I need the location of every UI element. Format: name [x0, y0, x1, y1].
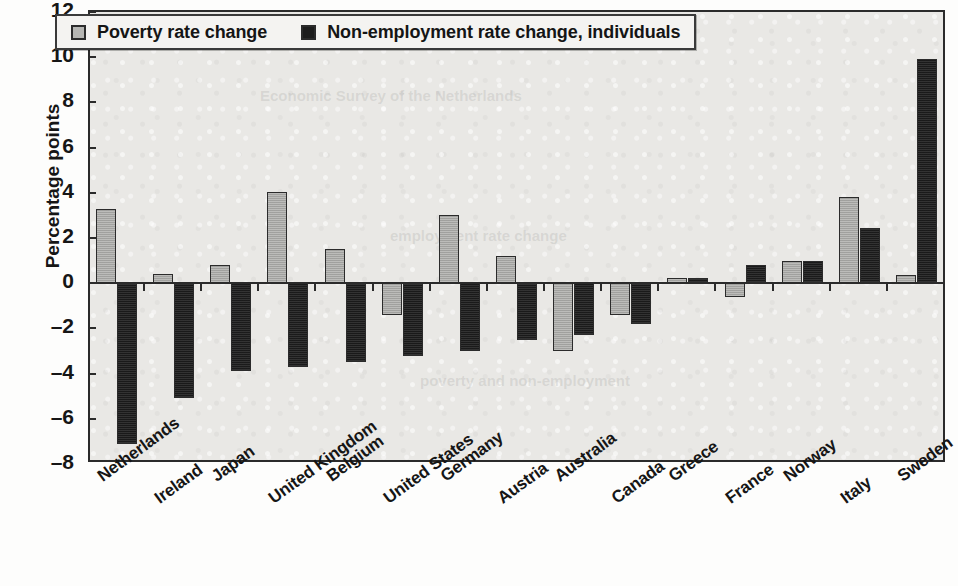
y-axis-tick-label: –2 — [28, 315, 74, 336]
y-axis-tick-label: –8 — [28, 451, 74, 472]
bar — [746, 265, 766, 283]
y-axis-tick-label: –6 — [28, 406, 74, 427]
y-axis-tick-outer — [88, 147, 90, 149]
ghost-text-a: Economic Survey of the Netherlands — [260, 87, 522, 104]
x-axis-tick-label: Ireland — [151, 460, 207, 508]
y-axis-tick-outer — [88, 56, 90, 58]
plot-area: Economic Survey of the Netherlands emplo… — [88, 10, 945, 462]
zero-baseline — [90, 282, 943, 284]
bar — [631, 283, 651, 324]
legend-entry: Poverty rate change — [71, 22, 267, 43]
x-axis-tick — [657, 284, 659, 291]
y-axis-tick-label: 8 — [28, 89, 74, 110]
bar — [553, 283, 573, 351]
bar — [346, 283, 366, 362]
x-axis-tick — [200, 284, 202, 291]
bar — [96, 209, 116, 284]
x-axis-tick — [314, 284, 316, 291]
paper-texture — [90, 12, 943, 460]
bar — [725, 283, 745, 297]
bar — [460, 283, 480, 351]
bar — [917, 59, 937, 283]
x-axis-tick — [486, 284, 488, 291]
x-axis-tick — [257, 284, 259, 291]
y-axis-tick — [90, 101, 96, 103]
x-axis-tick — [600, 284, 602, 291]
bar — [782, 261, 802, 284]
bar — [210, 265, 230, 283]
x-axis-tick — [543, 284, 545, 291]
bar — [803, 261, 823, 284]
x-axis-tick-label: Canada — [608, 457, 668, 509]
y-axis-tick — [90, 11, 96, 13]
bar — [517, 283, 537, 340]
x-axis-tick — [429, 284, 431, 291]
x-axis-tick-label: France — [722, 460, 778, 508]
bar — [439, 215, 459, 283]
x-axis-tick-label: Italy — [837, 473, 875, 509]
y-axis-tick-outer — [88, 327, 90, 329]
bar — [174, 283, 194, 398]
x-axis-tick — [143, 284, 145, 291]
legend-swatch-icon — [301, 25, 316, 40]
x-axis-tick — [829, 284, 831, 291]
ghost-text-c: poverty and non-employment — [420, 372, 630, 389]
bar — [610, 283, 630, 315]
bar — [860, 228, 880, 283]
legend-label: Non-employment rate change, individuals — [327, 22, 680, 43]
bar — [231, 283, 251, 371]
bar — [325, 249, 345, 283]
chart-legend: Poverty rate changeNon-employment rate c… — [55, 14, 696, 50]
legend-swatch-icon — [71, 25, 86, 40]
legend-entry: Non-employment rate change, individuals — [301, 22, 680, 43]
y-axis-tick — [90, 147, 96, 149]
y-axis-tick-label: 6 — [28, 135, 74, 156]
y-axis-tick — [90, 56, 96, 58]
y-axis-tick-outer — [88, 101, 90, 103]
y-axis-tick-outer — [88, 192, 90, 194]
x-axis-tick — [943, 284, 945, 291]
bar — [496, 256, 516, 283]
y-axis-tick-label: 2 — [28, 225, 74, 246]
chart-figure: Percentage points 121086420–2–4–6–8 Econ… — [0, 0, 958, 586]
bar — [382, 283, 402, 315]
y-axis-tick — [90, 192, 96, 194]
bar — [117, 283, 137, 443]
x-axis-tick-label: Austria — [494, 458, 552, 508]
bar — [574, 283, 594, 335]
x-axis-tick — [714, 284, 716, 291]
y-axis-tick-outer — [88, 11, 90, 13]
ghost-text-b: employment rate change — [390, 227, 567, 244]
y-axis-tick-label: 4 — [28, 180, 74, 201]
x-axis-tick — [772, 284, 774, 291]
x-axis-tick — [886, 284, 888, 291]
y-axis-tick-outer — [88, 237, 90, 239]
legend-label: Poverty rate change — [97, 22, 267, 43]
y-axis-tick-label: 0 — [28, 270, 74, 291]
y-axis-tick-label: –4 — [28, 361, 74, 382]
y-axis-tick — [90, 418, 96, 420]
bar — [267, 192, 287, 284]
bar — [288, 283, 308, 367]
bar — [839, 197, 859, 283]
y-axis-tick-outer — [88, 373, 90, 375]
y-axis-tick — [90, 373, 96, 375]
x-axis-tick — [372, 284, 374, 291]
y-axis-tick — [90, 327, 96, 329]
bar — [403, 283, 423, 355]
y-axis-tick-outer — [88, 418, 90, 420]
